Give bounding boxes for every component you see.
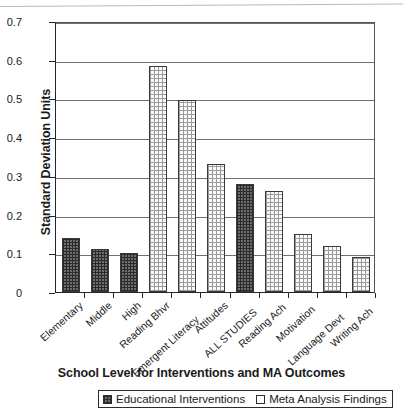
y-axis-tick-label: 0 [16,287,22,299]
bar-reading-bhvr [149,66,167,292]
x-axis-tick-mark [346,293,347,298]
legend-entry-edu: Educational Interventions [103,393,245,405]
y-axis-tick-label: 0.4 [7,132,22,144]
chart-legend: Educational InterventionsMeta Analysis F… [98,390,393,408]
y-axis-tick-label: 0.7 [7,16,22,28]
legend-swatch-meta [256,395,265,404]
y-axis-title: Standard Deviation Units [39,32,53,292]
y-axis-tick-label: 0.6 [7,55,22,67]
bar-chart-figure: Standard Deviation Units 0.70.60.50.40.3… [0,0,403,415]
y-axis-tick-mark [49,293,55,294]
plot-area [55,22,375,293]
legend-swatch-edu [103,395,112,404]
x-axis-tick-mark [200,293,201,298]
bar-emergent-literacy [178,100,196,292]
y-axis-tick-label: 0.2 [7,210,22,222]
legend-label: Educational Interventions [116,393,245,405]
y-axis-tick-label: 0.3 [7,171,22,183]
y-axis-tick-label: 0.1 [7,248,22,260]
legend-entry-meta: Meta Analysis Findings [256,393,387,405]
bar-group [56,23,374,292]
bar-reading-ach [265,191,283,292]
legend-label: Meta Analysis Findings [269,393,387,405]
bar-elementary [62,238,80,292]
y-axis-tick-label: 0.5 [7,93,22,105]
x-axis-title: School Level for Interventions and MA Ou… [0,366,403,380]
